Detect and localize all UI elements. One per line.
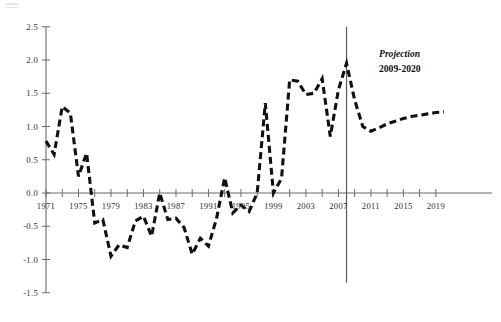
x-tick-label: 1979	[102, 201, 120, 211]
x-tick-label: 2007	[329, 201, 348, 211]
x-tick-label: 1999	[264, 201, 282, 211]
x-tick-label: 1995	[232, 201, 250, 211]
y-axis-labels: 2.52.01.51.00.50.0-0.5-1.0-1.5	[23, 22, 38, 298]
y-tick-label: -1.5	[23, 288, 38, 298]
chart-figure: 2.52.01.51.00.50.0-0.5-1.0-1.5 197119751…	[0, 0, 501, 322]
y-tick-label: 2.0	[26, 55, 38, 65]
projection-annotation-title: Projection	[379, 48, 420, 59]
x-tick-label: 2015	[394, 201, 412, 211]
x-tick-label: 1987	[167, 201, 186, 211]
x-tick-label: 1975	[69, 201, 87, 211]
y-tick-label: 1.5	[26, 88, 38, 98]
y-tick-label: 1.0	[26, 122, 38, 132]
x-tick-label: 2019	[427, 201, 445, 211]
projection-annotation-subtitle: 2009-2020	[379, 63, 421, 74]
x-tick-label: 2003	[297, 201, 315, 211]
y-tick-label: 0.0	[26, 188, 38, 198]
y-tick-label: -0.5	[23, 221, 38, 231]
series-line	[46, 63, 444, 256]
x-tick-label: 1991	[199, 201, 217, 211]
y-tick-label: -1.0	[23, 255, 38, 265]
y-tick-label: 0.5	[26, 155, 38, 165]
y-tick-label: 2.5	[26, 22, 38, 32]
x-tick-label: 1971	[37, 201, 55, 211]
x-tick-label: 2011	[362, 201, 380, 211]
x-axis-labels: 1971197519791983198719911995199920032007…	[37, 201, 445, 211]
line-chart: 2.52.01.51.00.50.0-0.5-1.0-1.5 197119751…	[0, 0, 501, 322]
x-tick-label: 1983	[134, 201, 152, 211]
